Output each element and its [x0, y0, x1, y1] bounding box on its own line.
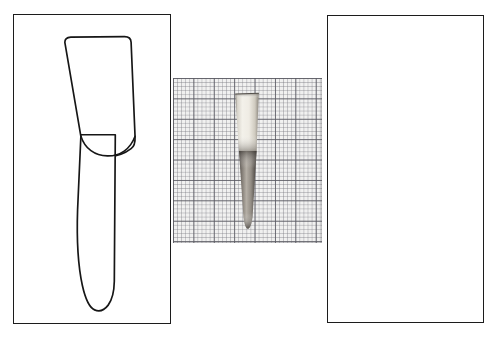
line-drawing-panel: [13, 14, 171, 324]
small-tooth-root: [239, 151, 257, 229]
tooth-photo-small-svg: [232, 91, 262, 232]
small-tooth-crown: [235, 93, 259, 151]
tooth-outline-drawing: [14, 15, 170, 323]
tooth-photograph-scaled: [232, 91, 262, 232]
dental-figure: Mandibular incisor — labial aspect Three…: [0, 0, 495, 341]
root-outline: [77, 135, 115, 311]
magnified-photo-panel: [327, 15, 484, 323]
